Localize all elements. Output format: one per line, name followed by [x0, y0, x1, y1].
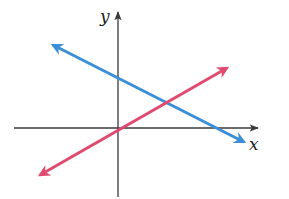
x-axis-label: x	[249, 134, 259, 154]
red-line	[40, 68, 227, 175]
y-axis-label: y	[99, 6, 110, 26]
coordinate-plane: y x	[0, 0, 289, 199]
